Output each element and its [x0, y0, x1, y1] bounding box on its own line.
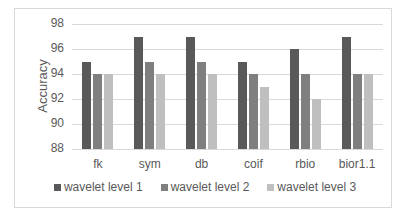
gridline	[72, 24, 383, 25]
bar	[238, 62, 247, 150]
y-axis-label: Accuracy	[35, 59, 50, 112]
bar	[342, 37, 351, 150]
bar	[208, 74, 217, 149]
bar	[249, 74, 258, 149]
legend-swatch-icon	[161, 184, 168, 191]
bar	[134, 37, 143, 150]
bar	[93, 74, 102, 149]
y-tick-label: 96	[40, 41, 64, 55]
bar	[312, 99, 321, 149]
x-tick-label: rbio	[295, 157, 315, 171]
bar	[104, 74, 113, 149]
legend-item: wavelet level 1	[54, 180, 143, 194]
x-tick-label: fk	[93, 157, 102, 171]
legend-label: wavelet level 1	[64, 180, 143, 194]
bar	[290, 49, 299, 149]
legend-item: wavelet level 3	[267, 180, 356, 194]
bar	[145, 62, 154, 150]
bar	[260, 87, 269, 150]
x-tick-label: db	[195, 157, 208, 171]
bar	[353, 74, 362, 149]
y-tick-label: 98	[40, 16, 64, 30]
gridline	[72, 49, 383, 50]
plot-area	[72, 24, 383, 149]
gridline	[72, 74, 383, 75]
gridline	[72, 149, 383, 150]
legend-item: wavelet level 2	[161, 180, 250, 194]
x-tick-label: sym	[139, 157, 161, 171]
y-tick-label: 88	[40, 141, 64, 155]
bar	[301, 74, 310, 149]
legend-label: wavelet level 3	[277, 180, 356, 194]
legend: wavelet level 1wavelet level 2wavelet le…	[0, 180, 410, 194]
bar	[82, 62, 91, 150]
x-tick-label: coif	[244, 157, 263, 171]
gridline	[72, 99, 383, 100]
legend-swatch-icon	[54, 184, 61, 191]
gridline	[72, 124, 383, 125]
y-tick-label: 90	[40, 116, 64, 130]
x-tick-label: bior1.1	[339, 157, 376, 171]
bar	[364, 74, 373, 149]
legend-swatch-icon	[267, 184, 274, 191]
bar	[156, 74, 165, 149]
bar	[186, 37, 195, 150]
bar	[197, 62, 206, 150]
legend-label: wavelet level 2	[171, 180, 250, 194]
